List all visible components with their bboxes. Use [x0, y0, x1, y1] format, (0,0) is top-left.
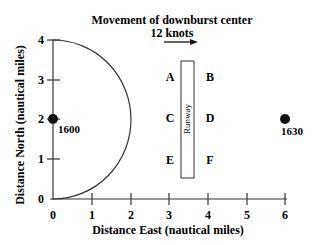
x-tick-2: 2	[128, 208, 134, 222]
y-tick-3: 3	[38, 73, 44, 87]
y-axis-label: Distance North (nautical miles)	[13, 45, 27, 205]
position-1600-dot	[48, 114, 58, 124]
x-tick-1: 1	[89, 208, 95, 222]
position-1630-label: 1630	[281, 125, 304, 137]
label-b: B	[206, 70, 214, 84]
label-e: E	[166, 153, 174, 167]
x-tick-0: 0	[50, 208, 56, 222]
runway-label: Runway	[182, 104, 192, 134]
y-tick-4: 4	[38, 33, 44, 47]
downburst-diagram: Movement of downburst center 12 knots 4 …	[0, 0, 336, 245]
x-axis-label: Distance East (nautical miles)	[92, 223, 244, 237]
title-line-2: 12 knots	[150, 26, 193, 40]
title-line-1: Movement of downburst center	[92, 13, 254, 27]
position-1600-label: 1600	[58, 123, 81, 135]
y-tick-2: 2	[38, 112, 44, 126]
x-tick-4: 4	[205, 208, 211, 222]
downburst-radius-arc	[53, 40, 131, 199]
y-tick-0: 0	[38, 192, 44, 206]
x-tick-5: 5	[244, 208, 250, 222]
x-tick-6: 6	[282, 208, 288, 222]
position-1630-dot	[280, 114, 290, 124]
label-d: D	[206, 111, 215, 125]
x-tick-3: 3	[166, 208, 172, 222]
y-tick-1: 1	[38, 152, 44, 166]
x-axis: 0 1 2 3 4 5 6	[50, 193, 288, 222]
label-c: C	[166, 111, 175, 125]
label-f: F	[206, 153, 213, 167]
label-a: A	[166, 70, 175, 84]
